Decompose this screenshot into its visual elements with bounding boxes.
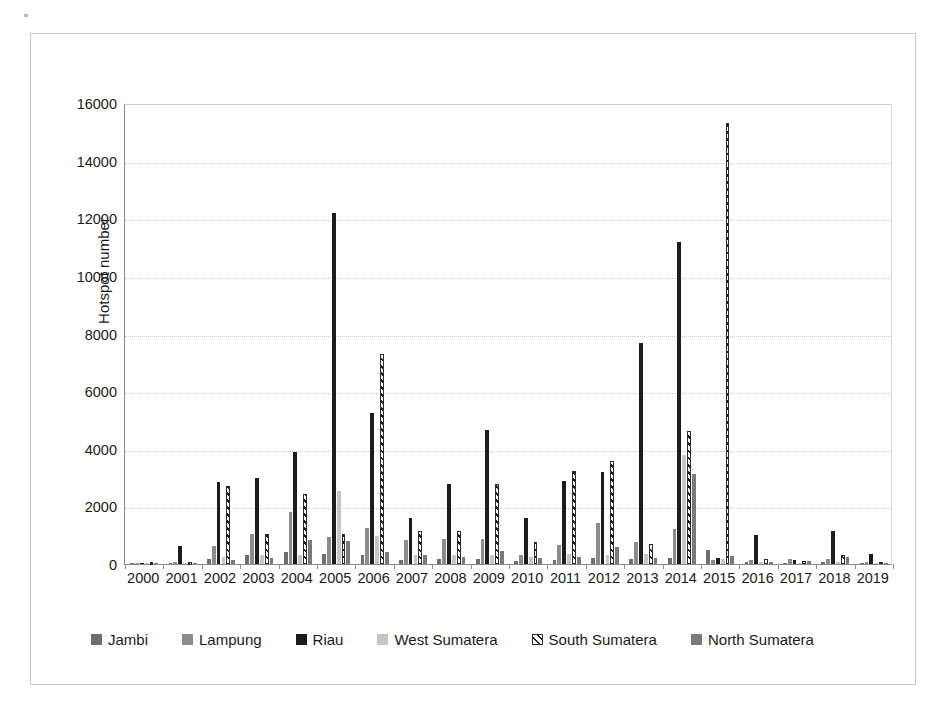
x-tickmark — [663, 564, 664, 569]
y-tick-label: 2000 — [47, 500, 117, 515]
bar-riau-2008 — [447, 484, 451, 564]
bar-group — [778, 105, 816, 564]
x-tick-label: 2019 — [854, 570, 892, 586]
legend-label: South Sumatera — [549, 631, 657, 648]
bar-group — [624, 105, 662, 564]
x-tickmark — [547, 564, 548, 569]
bar-north-sumatera-2002 — [231, 560, 235, 564]
bar-group — [202, 105, 240, 564]
bar-south-sumatera-2001 — [188, 563, 192, 564]
bar-north-sumatera-2006 — [385, 552, 389, 564]
bar-jambi-2006 — [361, 555, 365, 565]
bar-north-sumatera-2014 — [692, 474, 696, 564]
bar-lampung-2018 — [826, 559, 830, 564]
bar-jambi-2001 — [169, 563, 173, 564]
bar-south-sumatera-2002 — [226, 486, 230, 564]
bar-west-sumatera-2004 — [298, 555, 302, 565]
x-tick-label: 2003 — [239, 570, 277, 586]
bar-jambi-2002 — [207, 559, 211, 564]
bar-lampung-2009 — [481, 539, 485, 564]
bar-north-sumatera-2004 — [308, 540, 312, 564]
bar-south-sumatera-2017 — [802, 561, 806, 564]
bar-south-sumatera-2013 — [649, 544, 653, 564]
bar-north-sumatera-2010 — [538, 558, 542, 564]
x-tickmark — [394, 564, 395, 569]
scan-artifact-speck — [24, 14, 28, 17]
x-tick-label: 2015 — [700, 570, 738, 586]
bar-jambi-2000 — [130, 563, 134, 564]
bar-south-sumatera-2018 — [841, 555, 845, 565]
x-tick-label: 2009 — [470, 570, 508, 586]
bar-north-sumatera-2001 — [193, 563, 197, 564]
bar-west-sumatera-2001 — [183, 563, 187, 564]
bar-lampung-2008 — [442, 539, 446, 564]
bar-lampung-2017 — [788, 559, 792, 564]
bar-jambi-2004 — [284, 552, 288, 564]
bar-group — [509, 105, 547, 564]
legend-label: Riau — [313, 631, 344, 648]
bar-south-sumatera-2015 — [726, 123, 730, 564]
bar-riau-2014 — [677, 242, 681, 564]
figure-frame: Hotspot number 0200040006000800010000120… — [30, 33, 916, 685]
bar-south-sumatera-2011 — [572, 471, 576, 564]
bar-north-sumatera-2007 — [423, 555, 427, 564]
bar-lampung-2019 — [865, 562, 869, 564]
bar-north-sumatera-2015 — [730, 556, 734, 564]
x-tickmark — [471, 564, 472, 569]
y-tick-label: 4000 — [47, 443, 117, 458]
bar-group — [163, 105, 201, 564]
bar-lampung-2000 — [135, 563, 139, 564]
y-tick-label: 14000 — [47, 155, 117, 170]
x-tick-label: 2011 — [546, 570, 584, 586]
legend-item-north-sumatera[interactable]: North Sumatera — [691, 631, 814, 648]
bar-jambi-2007 — [399, 560, 403, 564]
x-tick-label: 2005 — [316, 570, 354, 586]
bar-south-sumatera-2007 — [418, 531, 422, 564]
plot-area — [124, 104, 892, 565]
bar-riau-2010 — [524, 518, 528, 564]
x-tick-label: 2002 — [201, 570, 239, 586]
bar-north-sumatera-2003 — [270, 558, 274, 564]
legend-item-jambi[interactable]: Jambi — [91, 631, 148, 648]
bar-group — [701, 105, 739, 564]
chart-legend: JambiLampungRiauWest SumateraSouth Sumat… — [91, 626, 891, 652]
bar-riau-2015 — [716, 558, 720, 564]
bar-riau-2001 — [178, 546, 182, 564]
bar-group — [739, 105, 777, 564]
legend-swatch-icon — [691, 634, 702, 645]
x-tickmark — [586, 564, 587, 569]
bar-riau-2019 — [869, 554, 873, 564]
bar-west-sumatera-2016 — [759, 562, 763, 564]
bar-north-sumatera-2017 — [807, 561, 811, 564]
x-tick-label: 2012 — [585, 570, 623, 586]
bar-lampung-2002 — [212, 546, 216, 564]
bar-group — [816, 105, 854, 564]
bar-north-sumatera-2018 — [846, 557, 850, 564]
legend-item-south-sumatera[interactable]: South Sumatera — [532, 631, 657, 648]
legend-item-riau[interactable]: Riau — [296, 631, 344, 648]
legend-item-lampung[interactable]: Lampung — [182, 631, 262, 648]
x-tick-label: 2016 — [738, 570, 776, 586]
bar-group — [663, 105, 701, 564]
bar-group — [125, 105, 163, 564]
x-tickmark — [701, 564, 702, 569]
bar-lampung-2003 — [250, 534, 254, 564]
bar-lampung-2010 — [519, 555, 523, 565]
bar-jambi-2013 — [629, 559, 633, 564]
bar-lampung-2014 — [673, 529, 677, 564]
bar-lampung-2012 — [596, 523, 600, 564]
bar-jambi-2003 — [245, 555, 249, 564]
bar-west-sumatera-2013 — [644, 554, 648, 564]
bar-west-sumatera-2006 — [375, 536, 379, 564]
x-tick-label: 2004 — [278, 570, 316, 586]
bar-south-sumatera-2000 — [150, 563, 154, 564]
x-tick-label: 2017 — [777, 570, 815, 586]
bar-group — [432, 105, 470, 564]
x-tickmark — [509, 564, 510, 569]
x-tickmark — [816, 564, 817, 569]
legend-item-west-sumatera[interactable]: West Sumatera — [377, 631, 497, 648]
bar-riau-2013 — [639, 343, 643, 564]
bar-west-sumatera-2012 — [606, 555, 610, 565]
bar-south-sumatera-2006 — [380, 354, 384, 564]
bar-south-sumatera-2003 — [265, 534, 269, 564]
